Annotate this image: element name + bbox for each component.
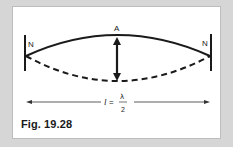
dimension-arrow-left [26,100,32,104]
arrow-head-up [113,37,121,45]
fraction-denominator: 2 [121,106,125,113]
dimension-arrow-right [204,100,210,104]
left-node-label: N [28,40,34,49]
length-variable: l [104,97,107,107]
antinode-label: A [114,24,120,33]
fraction-numerator: λ [120,93,124,101]
arrow-head-down [113,73,121,81]
equals-sign: = [109,98,114,107]
figure-caption: Fig. 19.28 [21,118,72,130]
right-node-label: N [202,39,208,48]
